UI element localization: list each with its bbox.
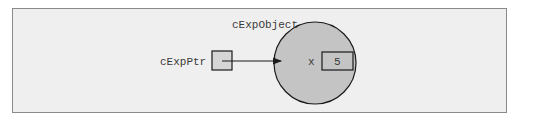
pointer-label: cExpPtr: [160, 56, 206, 68]
object-label: cExpObject: [232, 19, 298, 31]
object-pointer-diagram: cExpObject cExpPtr x 5: [0, 0, 535, 122]
member-value: 5: [334, 56, 341, 68]
member-name: x: [308, 56, 315, 68]
